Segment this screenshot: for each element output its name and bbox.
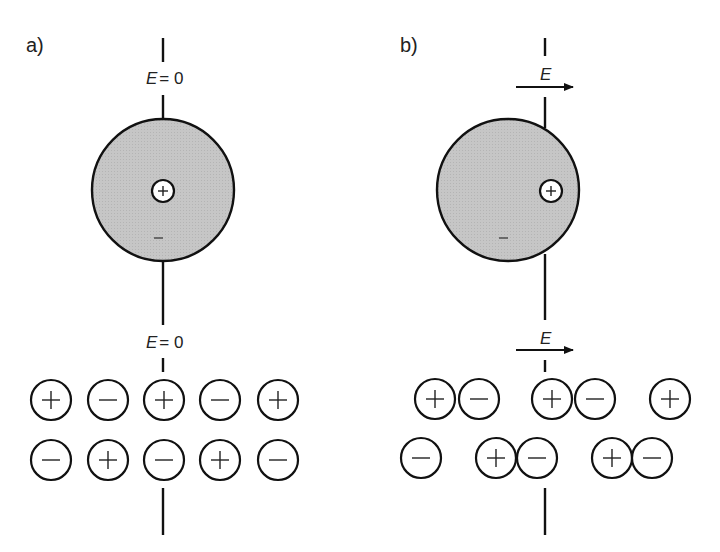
- negative-ion: [200, 380, 240, 420]
- negative-ion: [575, 379, 615, 419]
- polarization-diagram: a) E= 0 E= 0 b) E E: [0, 0, 720, 552]
- negative-ion: [88, 380, 128, 420]
- panel-b: b) E E: [400, 34, 690, 535]
- field-symbol: E: [146, 69, 158, 88]
- positive-ion: [88, 440, 128, 480]
- positive-ion: [31, 380, 71, 420]
- field-symbol: E: [146, 333, 158, 352]
- field-label-top-b: E: [540, 65, 552, 84]
- negative-ion: [258, 440, 298, 480]
- positive-ion: [650, 379, 690, 419]
- positive-ion: [532, 379, 572, 419]
- field-value: = 0: [159, 69, 183, 88]
- panel-a: a) E= 0 E= 0: [26, 34, 298, 535]
- panel-label-a: a): [26, 34, 44, 56]
- positive-ion: [258, 380, 298, 420]
- negative-ion: [31, 440, 71, 480]
- panel-label-b: b): [400, 34, 418, 56]
- positive-ion: [415, 379, 455, 419]
- negative-ion: [144, 440, 184, 480]
- positive-ion: [476, 438, 516, 478]
- negative-ion: [632, 438, 672, 478]
- field-label-bottom-b: E: [540, 329, 552, 348]
- positive-ion: [200, 440, 240, 480]
- negative-ion: [401, 438, 441, 478]
- field-label-bottom-a: E= 0: [146, 333, 183, 352]
- ionic-lattice-a: [31, 380, 298, 480]
- negative-ion: [459, 379, 499, 419]
- field-value: = 0: [159, 333, 183, 352]
- field-label-top-a: E= 0: [146, 69, 183, 88]
- positive-ion: [144, 380, 184, 420]
- ionic-lattice-b: [401, 379, 690, 478]
- negative-ion: [517, 438, 557, 478]
- positive-ion: [592, 438, 632, 478]
